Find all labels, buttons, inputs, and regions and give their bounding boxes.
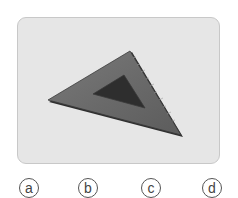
option-d[interactable]: d (202, 178, 222, 198)
answer-options: a b c d (0, 178, 238, 198)
option-b[interactable]: b (78, 178, 98, 198)
triangle-ruler-image (0, 0, 238, 198)
option-a[interactable]: a (19, 178, 39, 198)
option-c[interactable]: c (141, 178, 161, 198)
